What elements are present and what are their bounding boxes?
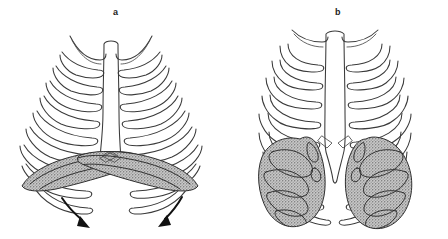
- figure-canvas: a b: [0, 0, 448, 239]
- panel-b-diaphragm-right: [345, 137, 411, 229]
- panel-b-sternum: [325, 31, 346, 183]
- panel-a-group: [20, 36, 202, 228]
- panel-label-a: a: [113, 8, 118, 17]
- panel-b-diaphragm-left: [259, 137, 326, 229]
- panel-b-group: [259, 30, 412, 229]
- thorax-diagram-svg: [0, 0, 448, 239]
- panel-a-sternum: [100, 41, 121, 169]
- panel-label-b: b: [335, 8, 341, 17]
